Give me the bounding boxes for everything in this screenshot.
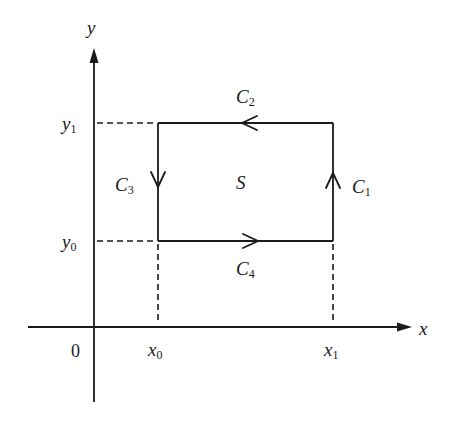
x-axis-arrowhead-icon [397,323,412,332]
guide-lines [97,123,333,324]
curve-c1-label: C1 [352,176,371,199]
axes [28,58,402,402]
y-axis-label: y [85,17,96,38]
tick-x0-label: x0 [147,339,162,362]
y-axis-arrowhead-icon [90,48,99,63]
green-theorem-rectangle-diagram: y x 0 y1 y0 x0 x1 S C2 C3 C1 C4 [0,0,451,428]
curve-c4-label: C4 [236,258,255,281]
curve-c3-label: C3 [115,174,134,197]
region-s-label: S [236,172,246,193]
tick-y0-label: y0 [60,231,76,254]
tick-x1-label: x1 [323,339,338,362]
tick-y1-label: y1 [60,113,76,136]
origin-label: 0 [71,341,80,361]
boundary-curve [158,123,333,241]
curve-c2-label: C2 [236,86,255,109]
x-axis-label: x [418,318,428,339]
